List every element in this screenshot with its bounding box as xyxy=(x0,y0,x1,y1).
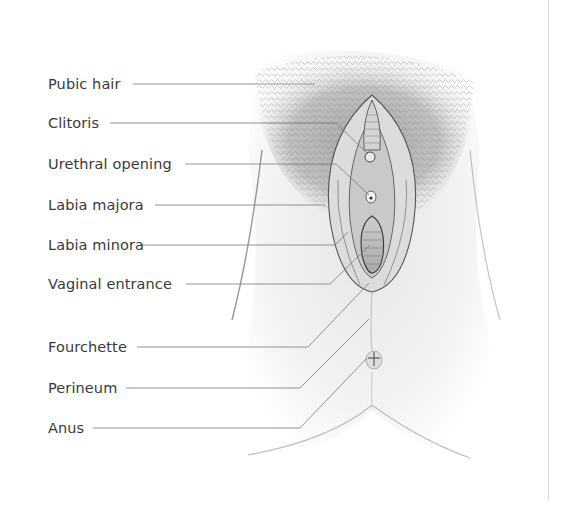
label-anus: Anus xyxy=(48,419,84,437)
label-pubic-hair: Pubic hair xyxy=(48,75,121,93)
label-labia-majora: Labia majora xyxy=(48,196,144,214)
label-labia-minora: Labia minora xyxy=(48,236,144,254)
label-urethral-opening: Urethral opening xyxy=(48,155,172,173)
label-vaginal-entrance: Vaginal entrance xyxy=(48,275,172,293)
anatomy-diagram: Pubic hair Clitoris Urethral opening Lab… xyxy=(0,0,570,508)
label-fourchette: Fourchette xyxy=(48,338,127,356)
label-clitoris: Clitoris xyxy=(48,114,99,132)
page-divider xyxy=(548,0,549,500)
label-perineum: Perineum xyxy=(48,379,117,397)
